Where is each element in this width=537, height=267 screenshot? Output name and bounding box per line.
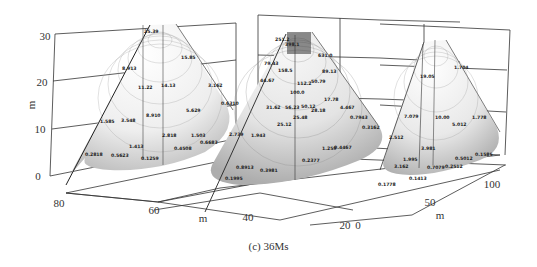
svg-text:1.943: 1.943 (251, 133, 266, 138)
svg-text:631.0: 631.0 (318, 53, 333, 58)
svg-text:0.3162: 0.3162 (362, 125, 380, 130)
svg-text:112.2: 112.2 (297, 81, 312, 86)
svg-text:1.503: 1.503 (191, 133, 206, 138)
svg-text:28.18: 28.18 (311, 108, 326, 113)
z-axis-label: m (25, 100, 37, 109)
svg-text:1.585: 1.585 (100, 119, 115, 124)
svg-text:56.23: 56.23 (285, 105, 300, 110)
svg-text:2.818: 2.818 (162, 133, 177, 138)
svg-text:0.5012: 0.5012 (455, 156, 473, 161)
z-axis: 0 10 20 30 m (25, 30, 51, 182)
svg-text:15.85: 15.85 (181, 55, 196, 60)
x-tick-40: 40 (243, 211, 255, 223)
y-tick-0: 0 (355, 219, 361, 231)
svg-text:0.1585: 0.1585 (475, 152, 493, 157)
svg-text:7.079: 7.079 (404, 114, 419, 119)
z-tick-30: 30 (40, 30, 52, 42)
svg-text:0.1413: 0.1413 (409, 176, 427, 181)
x-tick-60: 60 (149, 204, 161, 216)
svg-text:0.1259: 0.1259 (141, 156, 159, 161)
svg-text:3.981: 3.981 (421, 146, 436, 151)
svg-text:0.1995: 0.1995 (225, 176, 243, 181)
svg-text:398.1: 398.1 (285, 42, 300, 47)
svg-text:1.778: 1.778 (472, 115, 487, 120)
svg-text:19.05: 19.05 (420, 74, 435, 79)
svg-text:1.704: 1.704 (454, 65, 469, 70)
svg-text:158.5: 158.5 (278, 68, 293, 73)
svg-text:25.39: 25.39 (144, 29, 159, 34)
svg-text:0.5623: 0.5623 (111, 153, 129, 158)
svg-text:5.629: 5.629 (186, 108, 201, 113)
x-axis-label: m (199, 212, 208, 224)
svg-text:0.2512: 0.2512 (445, 164, 463, 169)
x-tick-20: 20 (340, 219, 352, 231)
svg-text:2.512: 2.512 (389, 135, 404, 140)
svg-text:31.62: 31.62 (266, 105, 281, 110)
svg-text:1.413: 1.413 (129, 144, 144, 149)
z-tick-20: 20 (37, 76, 49, 88)
svg-text:0.2818: 0.2818 (85, 152, 103, 157)
z-tick-0: 0 (35, 170, 41, 182)
svg-text:3.162: 3.162 (394, 164, 409, 169)
svg-text:8.910: 8.910 (146, 113, 161, 118)
svg-text:3.162: 3.162 (208, 83, 223, 88)
svg-text:14.13: 14.13 (161, 83, 176, 88)
svg-text:79.43: 79.43 (264, 61, 279, 66)
svg-text:25.12: 25.12 (277, 122, 292, 127)
svg-text:100.0: 100.0 (290, 90, 305, 95)
svg-text:0.2377: 0.2377 (302, 158, 320, 163)
svg-text:0.1778: 0.1778 (378, 182, 396, 187)
svg-text:1.995: 1.995 (403, 157, 418, 162)
svg-text:0.7943: 0.7943 (350, 115, 368, 120)
svg-text:11.22: 11.22 (138, 85, 153, 90)
svg-text:25.48: 25.48 (293, 115, 308, 120)
svg-text:0.4467: 0.4467 (334, 145, 352, 150)
svg-text:44.67: 44.67 (260, 78, 275, 83)
svg-text:5.012: 5.012 (452, 122, 467, 127)
svg-text:17.78: 17.78 (324, 97, 339, 102)
svg-text:8.913: 8.913 (122, 66, 137, 71)
svg-text:2.739: 2.739 (229, 132, 244, 137)
svg-text:0.6683: 0.6683 (200, 140, 218, 145)
figure-caption: (c) 36Ms (0, 240, 537, 252)
svg-text:0.6310: 0.6310 (221, 101, 239, 106)
center-cone-surface (205, 32, 382, 212)
x-tick-80: 80 (54, 197, 66, 209)
svg-text:0.4508: 0.4508 (174, 146, 192, 151)
figure-3d-contour-plot: 25.39 8.913 15.85 11.22 14.13 3.162 1.58… (0, 0, 537, 267)
z-tick-10: 10 (35, 123, 47, 135)
svg-text:3.548: 3.548 (121, 118, 136, 123)
y-tick-50: 50 (425, 196, 437, 208)
y-tick-100: 100 (484, 178, 501, 190)
svg-text:89.13: 89.13 (322, 69, 337, 74)
svg-text:0.7079: 0.7079 (427, 165, 445, 170)
y-axis-label: m (436, 209, 445, 221)
svg-text:0.3981: 0.3981 (260, 168, 278, 173)
svg-text:50.79: 50.79 (311, 79, 326, 84)
svg-text:4.467: 4.467 (340, 105, 355, 110)
svg-text:0.8913: 0.8913 (236, 165, 254, 170)
svg-text:10.00: 10.00 (435, 115, 450, 120)
